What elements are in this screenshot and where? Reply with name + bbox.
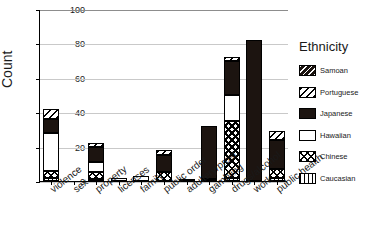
legend-item-samoan[interactable]: Samoan xyxy=(299,63,376,78)
bar-public-order[interactable] xyxy=(156,9,172,181)
solid-black-swatch xyxy=(299,108,316,119)
legend-item-portuguese[interactable]: Portuguese xyxy=(299,85,376,100)
legend-item-hawaiian[interactable]: Hawaiian xyxy=(299,128,376,143)
legend-item-caucasian[interactable]: Caucasian xyxy=(299,171,376,186)
legend-item-label: Caucasian xyxy=(320,174,355,183)
checkerboard-swatch xyxy=(299,151,316,162)
vertical-lines-swatch xyxy=(299,173,316,184)
bar-segment-chinese xyxy=(43,171,59,178)
x-axis-labels: violencesexpropertylicensesfamilypublic … xyxy=(0,186,376,251)
legend-item-label: Portuguese xyxy=(320,88,358,97)
bar-segment-japanese xyxy=(43,119,59,133)
bar-segment-hawaiian xyxy=(224,95,240,121)
y-tick-mark xyxy=(36,182,40,183)
diagonal-dark-swatch xyxy=(299,65,316,76)
bar-segment-portuguese xyxy=(88,143,104,146)
bar-violence[interactable] xyxy=(43,9,59,181)
bar-family[interactable] xyxy=(133,9,149,181)
bar-adultery-prost-[interactable] xyxy=(179,9,195,181)
bar-segment-portuguese xyxy=(224,57,240,60)
bar-segment-chinese xyxy=(269,169,285,178)
legend-title: Ethnicity xyxy=(299,39,376,54)
chart-title xyxy=(60,0,240,2)
diagonal-light-swatch xyxy=(299,87,316,98)
solid-white-swatch xyxy=(299,130,316,141)
legend-items: SamoanPortugueseJapaneseHawaiianChineseC… xyxy=(299,63,376,186)
bar-segment-portuguese xyxy=(269,131,285,140)
bar-segment-hawaiian xyxy=(43,133,59,171)
y-axis-title: Count xyxy=(0,51,15,88)
bar-segment-japanese xyxy=(88,147,104,162)
bar-sex[interactable] xyxy=(66,9,82,181)
bar-segment-portuguese xyxy=(156,150,172,155)
bar-licenses[interactable] xyxy=(111,9,127,181)
chart-page: Count 020406080100 violencesexpropertyli… xyxy=(0,0,376,251)
bar-segment-hawaiian xyxy=(88,162,104,172)
legend-item-label: Chinese xyxy=(320,152,348,161)
legend-item-label: Japanese xyxy=(320,109,353,118)
legend-item-label: Hawaiian xyxy=(320,131,351,140)
bar-series-container xyxy=(40,9,288,181)
plot-area xyxy=(39,10,287,182)
legend-item-label: Samoan xyxy=(320,66,348,75)
legend-item-chinese[interactable]: Chinese xyxy=(299,149,376,164)
bar-property[interactable] xyxy=(88,9,104,181)
legend-item-japanese[interactable]: Japanese xyxy=(299,106,376,121)
bar-work[interactable] xyxy=(246,9,262,181)
bar-segment-japanese xyxy=(246,40,262,181)
bar-segment-japanese xyxy=(224,61,240,95)
bar-segment-portuguese xyxy=(43,109,59,119)
legend: Ethnicity SamoanPortugueseJapaneseHawaii… xyxy=(299,39,376,192)
